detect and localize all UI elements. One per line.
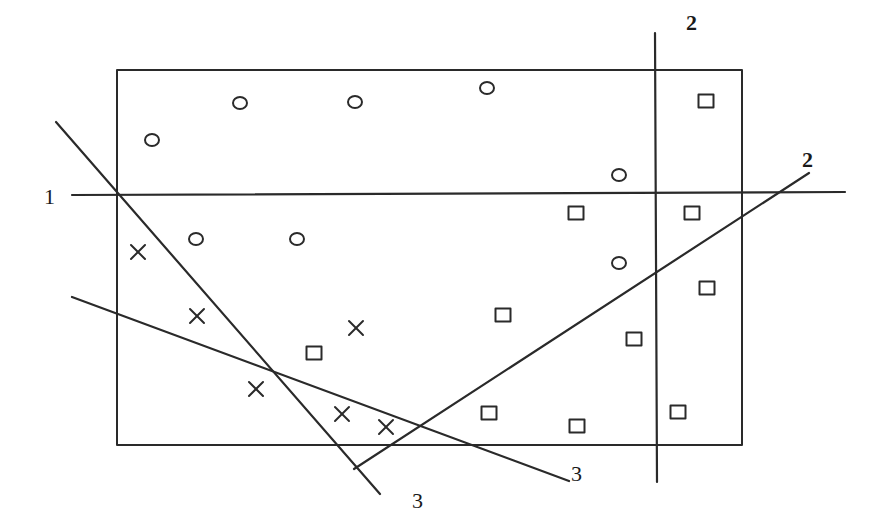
circle-point-icon — [145, 134, 159, 146]
circle-point-icon — [348, 96, 362, 108]
line-labels: 12233 — [44, 10, 813, 513]
cross-class-points — [131, 245, 393, 434]
cross-point-icon — [349, 321, 363, 335]
square-class-points — [307, 95, 715, 433]
circle-point-icon — [612, 169, 626, 181]
circle-class-points — [145, 82, 626, 269]
square-point-icon — [700, 282, 715, 295]
circle-point-icon — [480, 82, 494, 94]
square-point-icon — [496, 309, 511, 322]
square-point-icon — [569, 207, 584, 220]
circle-point-icon — [233, 97, 247, 109]
separating-lines — [56, 33, 845, 494]
diagram-canvas: 12233 — [0, 0, 885, 532]
line-3-shallow-label: 3 — [571, 461, 582, 486]
square-point-icon — [699, 95, 714, 108]
square-point-icon — [570, 420, 585, 433]
cross-point-icon — [379, 420, 393, 434]
square-point-icon — [627, 333, 642, 346]
line-1 — [72, 192, 845, 195]
line-2-vertical — [655, 33, 657, 482]
line-1-label: 1 — [44, 184, 55, 209]
line-2-diagonal — [354, 173, 809, 469]
line-2-vertical-label: 2 — [686, 10, 697, 35]
cross-point-icon — [335, 407, 349, 421]
square-point-icon — [671, 406, 686, 419]
feature-space-frame — [117, 70, 742, 445]
circle-point-icon — [189, 233, 203, 245]
line-3-shallow — [72, 297, 569, 481]
square-point-icon — [482, 407, 497, 420]
line-3-steep-label: 3 — [412, 488, 423, 513]
cross-point-icon — [190, 309, 204, 323]
line-2-diagonal-label: 2 — [802, 147, 813, 172]
square-point-icon — [307, 347, 322, 360]
cross-point-icon — [249, 382, 263, 396]
cross-point-icon — [131, 245, 145, 259]
circle-point-icon — [612, 257, 626, 269]
square-point-icon — [685, 207, 700, 220]
circle-point-icon — [290, 233, 304, 245]
